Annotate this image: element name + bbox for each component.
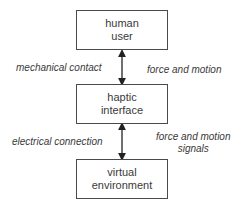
node-label-line: virtual bbox=[107, 166, 136, 179]
edge-label-force-and-motion-signals: force and motion signals bbox=[156, 131, 231, 155]
edge-label-electrical-connection: electrical connection bbox=[12, 136, 103, 148]
node-human-user: human user bbox=[76, 10, 168, 50]
edge-label-line: signals bbox=[156, 143, 231, 155]
edge-label-force-and-motion: force and motion bbox=[147, 64, 222, 76]
node-label-line: interface bbox=[101, 104, 143, 117]
edge-label-line: force and motion bbox=[156, 131, 231, 143]
node-label-line: user bbox=[111, 30, 132, 43]
node-virtual-environment: virtual environment bbox=[76, 159, 168, 199]
node-label-line: haptic bbox=[107, 91, 136, 104]
node-haptic-interface: haptic interface bbox=[76, 84, 168, 124]
node-label-line: human bbox=[105, 17, 139, 30]
node-label-line: environment bbox=[92, 179, 153, 192]
edge-label-mechanical-contact: mechanical contact bbox=[16, 62, 102, 74]
